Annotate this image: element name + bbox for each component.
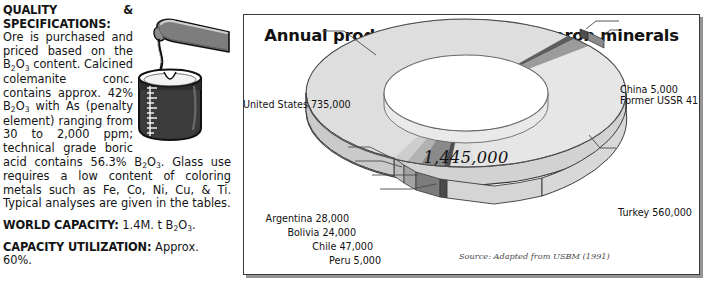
- sub-2c: 2: [142, 161, 147, 170]
- left-text-column: QUALITY & SPECIFICATIONS: Ore is purchas…: [3, 4, 231, 278]
- world-capacity-value-3: .: [192, 218, 196, 232]
- quality-body-4: O: [16, 99, 25, 113]
- quality-heading: QUALITY & SPECIFICATIONS:: [3, 3, 133, 31]
- label-argentina: Argentina 28,000: [250, 213, 349, 224]
- beaker-illustration: [137, 16, 231, 142]
- donut-hole: [384, 55, 548, 131]
- source-note: Source: Adapted from USBM (1991): [459, 251, 610, 261]
- quality-body-2: O: [16, 57, 25, 71]
- donut-chart: United States 735,000 China 5,000 Former…: [244, 15, 699, 274]
- capacity-utilization-paragraph: CAPACITY UTILIZATION: Approx. 60%.: [3, 241, 231, 268]
- sub-3a: 3: [25, 64, 30, 73]
- page-root: QUALITY & SPECIFICATIONS: Ore is purchas…: [0, 0, 704, 281]
- world-capacity-value-1: 1.4M. t B: [119, 218, 174, 232]
- label-turkey: Turkey 560,000: [618, 207, 692, 218]
- label-chile: Chile 47,000: [274, 241, 373, 252]
- sub-2a: 2: [11, 64, 16, 73]
- label-peru: Peru 5,000: [282, 255, 381, 266]
- label-china: China 5,000: [620, 84, 678, 95]
- chart-panel: Annual production capacity of boron mine…: [243, 14, 700, 275]
- label-former-ussr: Former USSR 41,000: [620, 95, 700, 106]
- sub-3d: 3: [187, 224, 192, 233]
- world-capacity-heading: WORLD CAPACITY:: [3, 218, 119, 232]
- label-bolivia: Bolivia 24,000: [257, 227, 356, 238]
- utilization-heading: CAPACITY UTILIZATION:: [3, 240, 152, 254]
- sub-3c: 3: [156, 161, 161, 170]
- sub-3b: 3: [25, 105, 30, 114]
- label-united-states: United States 735,000: [243, 99, 326, 110]
- center-total-value: 1,445,000: [396, 148, 536, 167]
- world-capacity-value-2: O: [178, 218, 187, 232]
- quality-body-6: O: [147, 155, 156, 169]
- sub-2b: 2: [11, 105, 16, 114]
- world-capacity-paragraph: WORLD CAPACITY: 1.4M. t B2O3.: [3, 219, 231, 234]
- sub-2d: 2: [173, 224, 178, 233]
